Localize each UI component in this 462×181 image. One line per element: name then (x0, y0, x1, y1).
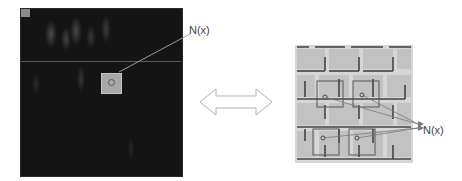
left-leader-line (119, 34, 190, 72)
double-arrow-icon (200, 89, 272, 115)
right-leader-lines (323, 95, 418, 138)
diagram-overlay (0, 0, 462, 181)
right-nx-label: N(x) (423, 124, 444, 136)
